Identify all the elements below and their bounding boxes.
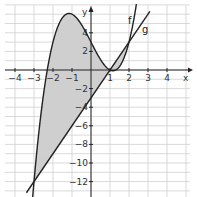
x-tick-label: −1: [65, 73, 78, 83]
x-tick-label: 1: [107, 73, 113, 83]
graph: −4−3−2−1123442−2−4−6−8−10−12xyfg: [0, 0, 197, 197]
x-tick-label: −2: [46, 73, 59, 83]
label-g: g: [142, 24, 148, 35]
x-tick-label: −3: [27, 73, 40, 83]
plot-area: −4−3−2−1123442−2−4−6−8−10−12xyfg: [0, 0, 197, 197]
y-axis-label: y: [82, 7, 88, 17]
x-axis-arrow-icon: [188, 68, 193, 73]
x-axis-label: x: [183, 73, 189, 83]
y-tick-label: 2: [82, 46, 88, 56]
y-tick-label: −6: [75, 121, 89, 131]
x-tick-label: 2: [126, 73, 132, 83]
x-tick-label: 3: [145, 73, 151, 83]
y-tick-label: −8: [75, 139, 89, 149]
y-tick-label: −10: [69, 158, 88, 168]
x-tick-label: −4: [8, 73, 22, 83]
y-tick-label: −12: [69, 177, 88, 187]
label-f: f: [128, 15, 132, 26]
x-tick-label: 4: [164, 73, 170, 83]
y-tick-label: −2: [75, 84, 88, 94]
y-axis-arrow-icon: [89, 6, 94, 12]
